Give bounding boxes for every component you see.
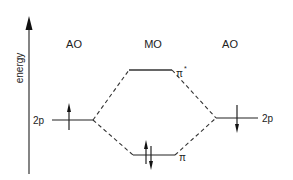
spin-up-arrow-icon — [67, 103, 71, 112]
left-2p-level — [52, 103, 93, 130]
left-ao-header: AO — [66, 38, 82, 50]
spin-up-arrow-icon — [144, 140, 148, 149]
right-2p-level — [216, 105, 258, 133]
left-2p-label: 2p — [33, 115, 45, 126]
antibonding-label: π — [176, 68, 183, 79]
antibonding-star: * — [184, 65, 187, 72]
spin-down-arrow-icon — [149, 161, 153, 170]
bonding-level — [133, 140, 175, 170]
mo-header: MO — [144, 38, 162, 50]
spin-down-arrow-icon — [235, 124, 239, 133]
right-2p-label: 2p — [262, 113, 274, 124]
energy-axis — [26, 16, 33, 174]
axis-label: energy — [14, 53, 25, 84]
mo-diagram: energy AO MO AO 2p 2p π * π — [0, 0, 293, 180]
correlation-lines — [93, 70, 216, 155]
bonding-label: π — [179, 152, 186, 163]
right-ao-header: AO — [222, 38, 238, 50]
